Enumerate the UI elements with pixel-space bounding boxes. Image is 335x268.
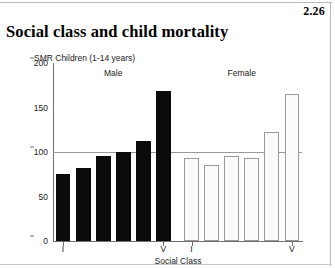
- group-label-female: Female: [228, 68, 256, 78]
- y-axis-tick-mark: [30, 58, 34, 59]
- chart-subtitle: SMR Children (1-14 years): [34, 53, 135, 63]
- bar-female-IIIN: [224, 156, 239, 241]
- y-axis-tick-label: 150: [34, 103, 48, 113]
- bar-chart: SMR Children (1-14 years) 050100150200 S…: [0, 50, 335, 268]
- bar-female-IV: [264, 132, 279, 241]
- bar-male-IIIN: [96, 156, 111, 241]
- plot-area: 050100150200: [53, 63, 302, 241]
- y-axis-tick-mark: [30, 236, 34, 237]
- bar-male-II: [76, 168, 91, 241]
- x-axis-tick-label: I: [62, 244, 64, 254]
- y-axis-tick-label: 50: [39, 192, 48, 202]
- bar-female-II: [204, 165, 219, 241]
- page-border-top: [0, 2, 332, 3]
- bar-male-IV: [136, 141, 151, 241]
- x-axis-tick-label: V: [161, 244, 167, 254]
- group-label-male: Male: [104, 68, 122, 78]
- bar-male-I: [56, 174, 71, 241]
- y-axis-tick-mark: [30, 147, 34, 148]
- x-axis-tick-label: V: [289, 244, 295, 254]
- bar-female-IIIM: [244, 158, 259, 241]
- bar-male-IIIM: [116, 152, 131, 241]
- figure-page: 2.26 Social class and child mortality SM…: [0, 0, 335, 268]
- x-axis-line: [53, 241, 303, 242]
- bar-male-V: [156, 91, 171, 241]
- y-axis-tick-label: 200: [34, 58, 48, 68]
- y-axis-tick-label: 100: [34, 147, 48, 157]
- bar-female-I: [184, 158, 199, 241]
- x-axis-title: Social Class: [155, 256, 202, 266]
- bar-female-V: [285, 94, 300, 241]
- x-axis-tick-label: I: [190, 244, 192, 254]
- page-title: Social class and child mortality: [6, 22, 228, 42]
- y-axis-tick-label: 0: [43, 236, 48, 246]
- figure-number: 2.26: [303, 4, 325, 19]
